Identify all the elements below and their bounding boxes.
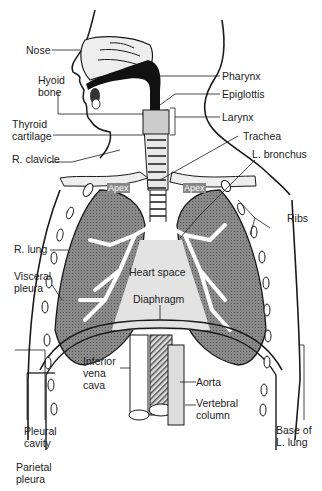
- label-inferior-vena-cava-line1: Inferior: [83, 355, 116, 367]
- label-r-lung: R. lung: [14, 243, 47, 255]
- label-ribs: Ribs: [287, 212, 308, 224]
- label-aorta: Aorta: [196, 376, 221, 388]
- respiratory-diagram: Nose Hyoid bone Thyroid cartilage R. cla…: [0, 0, 322, 491]
- label-visceral-pleura-line1: Visceral: [14, 270, 51, 282]
- label-visceral-pleura-line2: pleura: [14, 282, 43, 294]
- label-vertebral-column-line2: column: [196, 409, 230, 421]
- label-vertebral-column-line1: Vertebral: [196, 397, 238, 409]
- label-pleural-cavity-line1: Pleural: [24, 425, 57, 437]
- label-pleural-cavity-line2: cavity: [24, 437, 51, 449]
- label-thyroid-cartilage-line2: cartilage: [12, 130, 52, 142]
- label-diaphragm: Diaphragm: [133, 293, 184, 305]
- label-epiglottis: Epiglottis: [222, 88, 265, 100]
- label-trachea: Trachea: [243, 130, 281, 142]
- label-heart-space: Heart space: [129, 266, 186, 278]
- label-inferior-vena-cava-line2: vena: [83, 367, 106, 379]
- label-parietal-pleura-line1: Parietal: [16, 461, 52, 473]
- label-hyoid-bone-line1: Hyoid: [38, 74, 65, 86]
- label-pharynx: Pharynx: [222, 70, 261, 82]
- label-l-bronchus: L. bronchus: [252, 148, 307, 160]
- label-hyoid-bone-line2: bone: [38, 86, 61, 98]
- label-thyroid-cartilage-line1: Thyroid: [12, 118, 47, 130]
- label-base-of-l-lung-line2: L. lung: [276, 436, 308, 448]
- label-nose: Nose: [26, 44, 51, 56]
- label-parietal-pleura-line2: pleura: [16, 473, 45, 485]
- label-r-clavicle: R. clavicle: [12, 153, 60, 165]
- label-larynx: Larynx: [222, 111, 254, 123]
- label-apex-right: Apex: [107, 183, 130, 193]
- label-base-of-l-lung-line1: Base of: [276, 424, 312, 436]
- label-inferior-vena-cava-line3: cava: [83, 379, 105, 391]
- label-apex-left: Apex: [183, 183, 206, 193]
